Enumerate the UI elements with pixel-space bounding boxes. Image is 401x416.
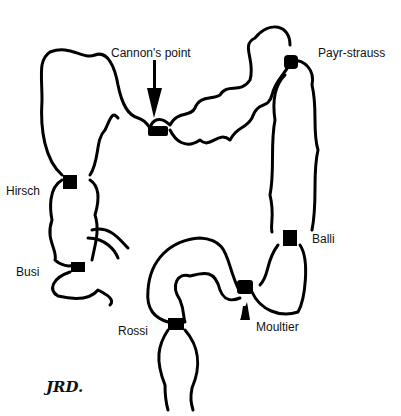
label-busi: Busi	[16, 265, 39, 279]
colon-diagram: Cannon's point Payr-strauss Hirsch Busi …	[0, 0, 401, 416]
cannon-marker	[148, 126, 168, 136]
moultier-arrow	[240, 302, 250, 320]
label-hirsch: Hirsch	[6, 184, 40, 198]
moultier-marker	[237, 280, 253, 294]
rossi-marker	[168, 318, 184, 330]
label-rossi: Rossi	[118, 324, 148, 338]
label-payr-strauss: Payr-strauss	[318, 46, 385, 60]
payr-marker	[284, 55, 298, 69]
label-cannons-point: Cannon's point	[111, 46, 191, 60]
colon-outline	[0, 0, 401, 416]
cannon-arrow	[147, 88, 162, 118]
balli-marker	[283, 230, 297, 246]
hirsch-marker	[63, 175, 77, 189]
label-moultier: Moultier	[256, 320, 299, 334]
busi-marker	[71, 262, 85, 272]
artist-signature: JRD.	[46, 378, 83, 396]
label-balli: Balli	[312, 232, 335, 246]
